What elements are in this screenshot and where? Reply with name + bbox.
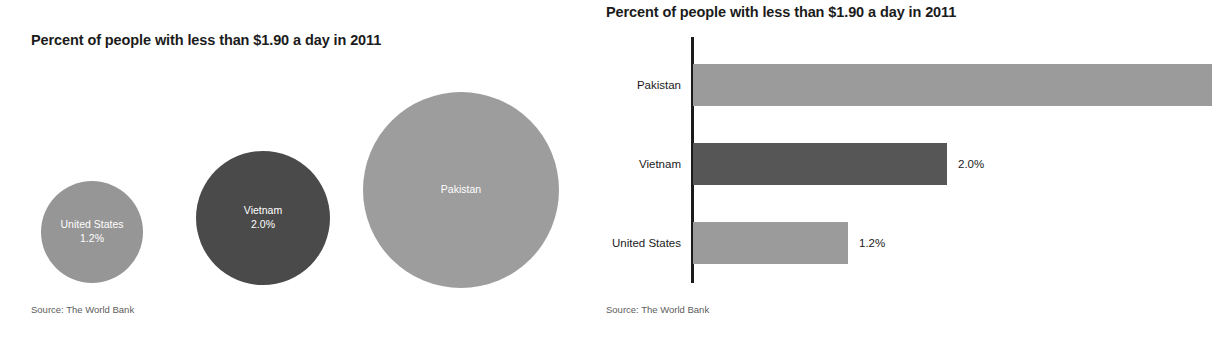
bar-row-united-states: United States 1.2% (600, 222, 1228, 264)
bubble-vietnam: Vietnam 2.0% (196, 151, 330, 285)
bar-category-label-united-states: United States (612, 237, 681, 249)
bar-category-label-vietnam: Vietnam (639, 158, 681, 170)
bubble-value-vietnam: 2.0% (251, 218, 275, 232)
bar-row-pakistan: Pakistan (600, 64, 1228, 106)
bar-value-label-vietnam: 2.0% (958, 158, 984, 170)
bubble-chart-panel: Percent of people with less than $1.90 a… (0, 0, 600, 337)
bar-vietnam (693, 143, 947, 185)
bubble-label-pakistan: Pakistan (441, 183, 481, 197)
bar-chart-panel: Percent of people with less than $1.90 a… (600, 0, 1228, 337)
bubble-label-united-states: United States (60, 218, 123, 232)
bubble-chart-title: Percent of people with less than $1.90 a… (31, 32, 381, 48)
bubble-chart-source-note: Source: The World Bank (31, 304, 134, 315)
bubble-label-vietnam: Vietnam (244, 204, 282, 218)
bar-category-label-pakistan: Pakistan (637, 79, 681, 91)
bar-pakistan (693, 64, 1212, 106)
bar-row-vietnam: Vietnam 2.0% (600, 143, 1228, 185)
bubble-pakistan: Pakistan (363, 92, 559, 288)
bubble-united-states: United States 1.2% (41, 181, 143, 283)
bar-chart-title: Percent of people with less than $1.90 a… (606, 4, 956, 20)
bar-united-states (693, 222, 848, 264)
bar-value-label-united-states: 1.2% (859, 237, 885, 249)
bar-chart-source-note: Source: The World Bank (606, 304, 709, 315)
bubble-value-united-states: 1.2% (80, 232, 104, 246)
